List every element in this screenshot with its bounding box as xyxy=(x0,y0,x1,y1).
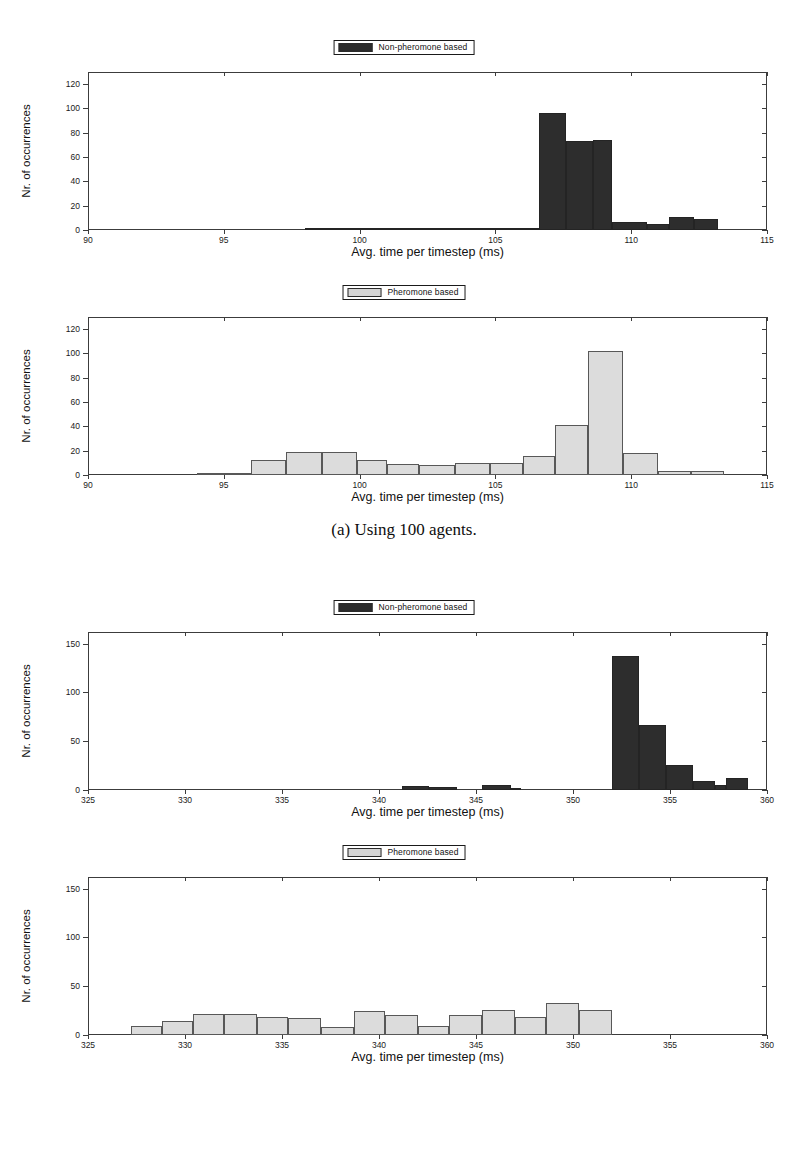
x-axis-tick xyxy=(476,1035,477,1039)
y-axis-tick-right xyxy=(762,378,767,379)
x-axis-tick xyxy=(224,230,225,234)
y-axis-tick-right xyxy=(762,692,767,693)
histogram-bar xyxy=(305,228,332,230)
y-axis-tick-label: 0 xyxy=(75,470,80,480)
x-axis-tick-top xyxy=(573,632,574,636)
y-axis-tick-label: 60 xyxy=(71,152,80,162)
legend-pheromone-250: Pheromone based xyxy=(343,845,466,860)
y-axis-tick-label: 80 xyxy=(71,373,80,383)
y-axis-tick xyxy=(83,329,88,330)
y-axis-tick xyxy=(83,353,88,354)
x-axis-tick xyxy=(767,790,768,794)
x-axis-tick-label: 340 xyxy=(372,1040,386,1050)
x-axis-tick-label: 340 xyxy=(372,795,386,805)
histogram-bar xyxy=(332,228,359,230)
x-axis-tick-top xyxy=(360,317,361,321)
x-axis-tick xyxy=(767,230,768,234)
x-axis-tick-top xyxy=(670,632,671,636)
x-axis-tick-top xyxy=(573,877,574,881)
y-axis-tick-label: 0 xyxy=(75,785,80,795)
histogram-bar xyxy=(402,786,429,790)
y-axis-tick xyxy=(83,644,88,645)
panel-pheromone-250: Pheromone based Nr. of occurrences 05010… xyxy=(0,845,808,1090)
x-axis-tick-label: 335 xyxy=(275,1040,289,1050)
y-axis-tick-right xyxy=(762,206,767,207)
x-axis-tick-top xyxy=(495,317,496,321)
plot-area-nonpheromone-100: 0204060801001209095100105110115 xyxy=(88,72,767,230)
y-axis-tick-label: 0 xyxy=(75,1030,80,1040)
y-axis-title-text: Nr. of occurrences xyxy=(20,104,32,197)
y-axis-tick-label: 80 xyxy=(71,128,80,138)
histogram-bar xyxy=(321,1027,354,1035)
histogram-bar xyxy=(669,217,693,230)
histogram-bar xyxy=(385,1015,418,1035)
subfigure-b: Non-pheromone based Nr. of occurrences 0… xyxy=(0,600,808,1140)
histogram-bar xyxy=(288,1018,321,1035)
x-axis-tick xyxy=(360,230,361,234)
y-axis-tick-label: 120 xyxy=(66,79,80,89)
histogram-bar xyxy=(666,765,693,790)
histogram-bar xyxy=(490,463,523,475)
y-axis-tick xyxy=(83,181,88,182)
legend-swatch-light-icon xyxy=(348,848,382,857)
panel-pheromone-100: Pheromone based Nr. of occurrences 02040… xyxy=(0,285,808,530)
x-axis-tick-top xyxy=(767,877,768,881)
panel-nonpheromone-250: Non-pheromone based Nr. of occurrences 0… xyxy=(0,600,808,845)
histogram-bar xyxy=(197,473,224,475)
histogram-bar xyxy=(523,456,556,475)
y-axis-tick-label: 0 xyxy=(75,225,80,235)
histogram-bar xyxy=(523,228,539,230)
histogram-bar xyxy=(515,1017,546,1035)
y-axis-tick xyxy=(83,378,88,379)
plot-area-pheromone-100: 0204060801001209095100105110115 xyxy=(88,317,767,475)
y-axis-tick-right xyxy=(762,937,767,938)
y-axis-title-text: Nr. of occurrences xyxy=(20,664,32,757)
histogram-bar xyxy=(224,1014,257,1035)
legend-label: Pheromone based xyxy=(388,848,459,857)
histogram-bar xyxy=(482,785,511,790)
legend-swatch-dark-icon xyxy=(339,603,373,612)
y-axis-tick xyxy=(83,986,88,987)
y-axis-tick-right xyxy=(762,329,767,330)
x-axis-tick-label: 330 xyxy=(178,1040,192,1050)
legend-nonpheromone-250: Non-pheromone based xyxy=(334,600,475,615)
x-axis-tick-label: 110 xyxy=(624,480,638,490)
histogram-bar xyxy=(162,1021,193,1035)
histogram-bar xyxy=(257,1017,288,1035)
plot-area-nonpheromone-250: 050100150325330335340345350355360 xyxy=(88,632,767,790)
legend-label: Pheromone based xyxy=(388,288,459,297)
x-axis-tick-top xyxy=(224,72,225,76)
x-axis-tick-top xyxy=(88,877,89,881)
x-axis-tick xyxy=(573,1035,574,1039)
legend-label: Non-pheromone based xyxy=(379,603,468,612)
x-axis-tick-label: 105 xyxy=(488,235,502,245)
x-axis-tick-label: 325 xyxy=(81,1040,95,1050)
x-axis-tick-label: 100 xyxy=(353,235,367,245)
x-axis-tick-label: 115 xyxy=(760,235,774,245)
histogram-bar xyxy=(357,460,387,475)
x-axis-tick-label: 105 xyxy=(488,480,502,490)
x-axis-tick-label: 330 xyxy=(178,795,192,805)
legend-label: Non-pheromone based xyxy=(379,43,468,52)
legend-nonpheromone-100: Non-pheromone based xyxy=(334,40,475,55)
legend-pheromone-100: Pheromone based xyxy=(343,285,466,300)
y-axis-tick-right xyxy=(762,741,767,742)
y-axis-title-text: Nr. of occurrences xyxy=(20,909,32,1002)
y-axis-tick-label: 40 xyxy=(71,176,80,186)
y-axis-tick-right xyxy=(762,181,767,182)
y-axis-tick xyxy=(83,133,88,134)
x-axis-tick-label: 360 xyxy=(760,795,774,805)
y-axis-tick-label: 100 xyxy=(66,687,80,697)
x-axis-tick xyxy=(670,1035,671,1039)
x-axis-tick xyxy=(224,475,225,479)
histogram-bar xyxy=(224,473,251,475)
y-axis-tick-label: 20 xyxy=(71,446,80,456)
x-axis-title: Avg. time per timestep (ms) xyxy=(88,245,767,259)
histogram-bar xyxy=(593,140,612,230)
histogram-bar xyxy=(387,464,420,475)
y-axis-tick xyxy=(83,157,88,158)
histogram-bar xyxy=(441,228,468,230)
x-axis-tick xyxy=(631,230,632,234)
x-axis-tick-top xyxy=(476,877,477,881)
x-axis-tick-top xyxy=(282,632,283,636)
